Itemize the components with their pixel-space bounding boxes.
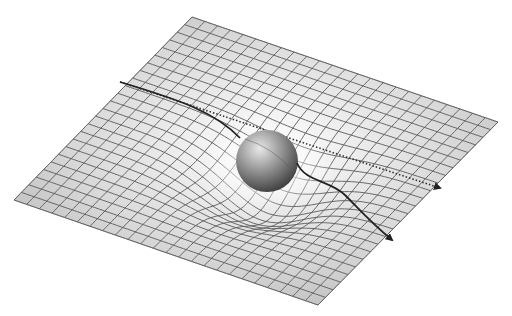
spacetime-diagram [0, 0, 512, 316]
spacetime-curvature-figure [0, 0, 512, 316]
